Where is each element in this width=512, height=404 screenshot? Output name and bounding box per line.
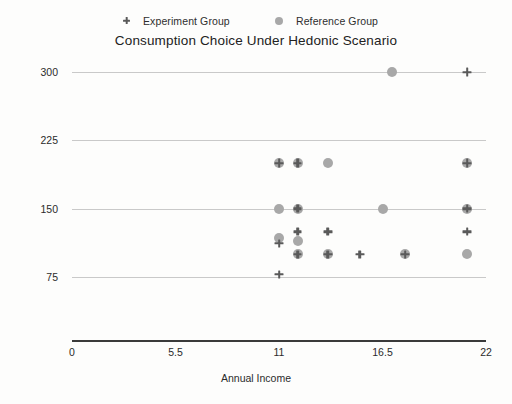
data-point-experiment-group bbox=[462, 203, 473, 214]
data-point-experiment-group bbox=[292, 249, 303, 260]
x-axis-line bbox=[72, 340, 486, 342]
plus-marker-icon bbox=[462, 158, 473, 169]
data-point-experiment-group bbox=[400, 249, 411, 260]
x-axis-tick-label: 11 bbox=[274, 346, 285, 358]
plus-marker-icon bbox=[274, 238, 285, 249]
y-axis-tick-label: 75 bbox=[46, 271, 58, 283]
plus-marker-icon bbox=[354, 249, 365, 260]
plus-marker-icon bbox=[274, 269, 285, 280]
circle-marker-icon bbox=[275, 14, 289, 28]
data-point-experiment-group bbox=[462, 158, 473, 169]
chart-title: Consumption Choice Under Hedonic Scenari… bbox=[0, 33, 512, 48]
legend-item-reference-group[interactable]: Reference Group bbox=[275, 11, 378, 31]
data-point-experiment-group bbox=[274, 158, 285, 169]
circle-marker-icon bbox=[387, 67, 397, 77]
data-point-experiment-group bbox=[292, 226, 303, 237]
legend-label-experiment-group: Experiment Group bbox=[143, 15, 230, 27]
y-axis-tick-label: 225 bbox=[40, 134, 58, 146]
data-point-experiment-group bbox=[292, 158, 303, 169]
legend-label-reference-group: Reference Group bbox=[296, 15, 378, 27]
circle-marker-icon bbox=[274, 204, 284, 214]
data-point-experiment-group bbox=[354, 249, 365, 260]
x-axis-tick-label: 5.5 bbox=[168, 346, 183, 358]
circle-marker-icon bbox=[462, 249, 472, 259]
gridline bbox=[72, 140, 486, 141]
chart-legend: Experiment Group Reference Group bbox=[0, 11, 512, 31]
data-point-reference-group bbox=[274, 204, 284, 214]
data-point-experiment-group bbox=[274, 269, 285, 280]
data-point-experiment-group bbox=[322, 249, 333, 260]
y-axis-tick-label: 300 bbox=[40, 66, 58, 78]
plus-marker-icon bbox=[462, 67, 473, 78]
data-point-experiment-group bbox=[462, 67, 473, 78]
y-axis-tick-labels: 30022515075 bbox=[0, 0, 72, 404]
plus-marker-icon bbox=[462, 226, 473, 237]
plus-marker-icon bbox=[400, 249, 411, 260]
data-point-experiment-group bbox=[322, 226, 333, 237]
x-axis-tick-label: 0 bbox=[69, 346, 75, 358]
plus-marker-icon bbox=[122, 14, 136, 28]
data-point-experiment-group bbox=[292, 203, 303, 214]
data-point-reference-group bbox=[378, 204, 388, 214]
data-point-reference-group bbox=[293, 236, 303, 246]
plus-marker-icon bbox=[292, 158, 303, 169]
plus-marker-icon bbox=[322, 226, 333, 237]
data-point-reference-group bbox=[462, 249, 472, 259]
plus-marker-icon bbox=[292, 226, 303, 237]
x-axis-tick-labels: 05.51116.522 bbox=[0, 346, 512, 362]
gridline bbox=[72, 72, 486, 73]
data-point-experiment-group bbox=[462, 226, 473, 237]
plus-marker-icon bbox=[322, 249, 333, 260]
x-axis-tick-label: 16.5 bbox=[372, 346, 392, 358]
circle-marker-icon bbox=[323, 158, 333, 168]
legend-item-experiment-group[interactable]: Experiment Group bbox=[122, 11, 230, 31]
plus-marker-icon bbox=[462, 203, 473, 214]
plus-marker-icon bbox=[292, 203, 303, 214]
data-point-reference-group bbox=[387, 67, 397, 77]
data-point-reference-group bbox=[323, 158, 333, 168]
plus-marker-icon bbox=[292, 249, 303, 260]
scatter-chart-figure: Experiment Group Reference Group Consump… bbox=[0, 0, 512, 404]
circle-marker-icon bbox=[378, 204, 388, 214]
plot-area bbox=[72, 72, 486, 277]
plus-marker-icon bbox=[274, 158, 285, 169]
y-axis-tick-label: 150 bbox=[40, 203, 58, 215]
data-point-experiment-group bbox=[274, 238, 285, 249]
circle-marker-icon bbox=[293, 236, 303, 246]
x-axis-tick-label: 22 bbox=[480, 346, 492, 358]
x-axis-title: Annual Income bbox=[0, 372, 512, 384]
